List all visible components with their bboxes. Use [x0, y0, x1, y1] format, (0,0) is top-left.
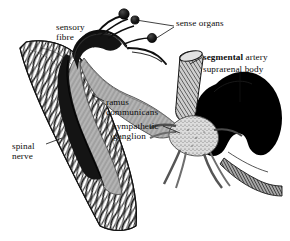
label-sense-organs-text: sense organs — [176, 18, 224, 28]
label-spinal-line2: nerve — [12, 151, 33, 161]
sense-organ-node — [147, 33, 156, 42]
label-sympathetic-line1: sympathetic — [113, 121, 159, 131]
label-segmental-rest: artery — [246, 52, 268, 62]
label-ramus-line2: communicans — [106, 107, 158, 117]
label-segmental-emphasis: segmental — [203, 52, 243, 62]
sense-organ-node — [119, 9, 129, 19]
leader-sense-organs-a — [136, 20, 174, 26]
label-spinal-line1: spinal — [12, 141, 35, 151]
anatomical-figure: sensory fibre sense organs segmental art… — [0, 0, 290, 241]
label-sensory-fibre: sensory fibre — [56, 22, 85, 42]
label-sympathetic-line2: ganglion — [113, 131, 146, 141]
label-segmental-artery: segmental artery — [203, 52, 268, 62]
label-sense-organs: sense organs — [176, 18, 224, 28]
label-ramus-communicans: ramus communicans — [106, 97, 158, 117]
label-sensory-fibre-line1: sensory — [56, 22, 85, 32]
label-sympathetic-ganglion: sympathetic ganglion — [113, 121, 159, 141]
sense-organs — [119, 9, 157, 43]
label-sensory-fibre-line2: fibre — [56, 32, 74, 42]
label-suprarenal-body: suprarenal body — [203, 64, 263, 74]
label-ramus-line1: ramus — [106, 97, 129, 107]
label-suprarenal-body-text: suprarenal body — [203, 64, 263, 74]
leader-sense-organs-b — [155, 27, 174, 39]
label-spinal-nerve: spinal nerve — [12, 141, 35, 161]
